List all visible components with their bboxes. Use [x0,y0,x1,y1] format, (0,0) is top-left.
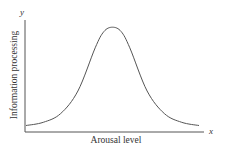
x-axis-symbol: x [208,126,213,136]
y-axis-label: Information processing [9,31,19,120]
inverted-u-chart: y x Arousal level Information processing [0,0,226,149]
inverted-u-curve [26,27,199,125]
x-axis-label: Arousal level [91,135,142,145]
y-axis-symbol: y [19,7,24,17]
